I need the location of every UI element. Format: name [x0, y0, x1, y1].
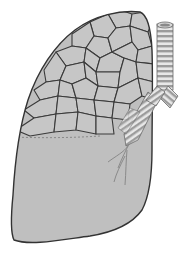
trachea	[157, 22, 173, 90]
lung-illustration	[0, 0, 186, 253]
